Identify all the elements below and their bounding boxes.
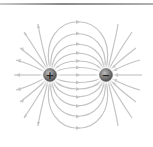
dipole-field-diagram: + −	[0, 0, 153, 147]
positive-charge: +	[39, 64, 61, 86]
minus-sign: −	[102, 70, 110, 81]
plus-sign: +	[46, 70, 54, 81]
negative-charge: −	[95, 64, 117, 86]
